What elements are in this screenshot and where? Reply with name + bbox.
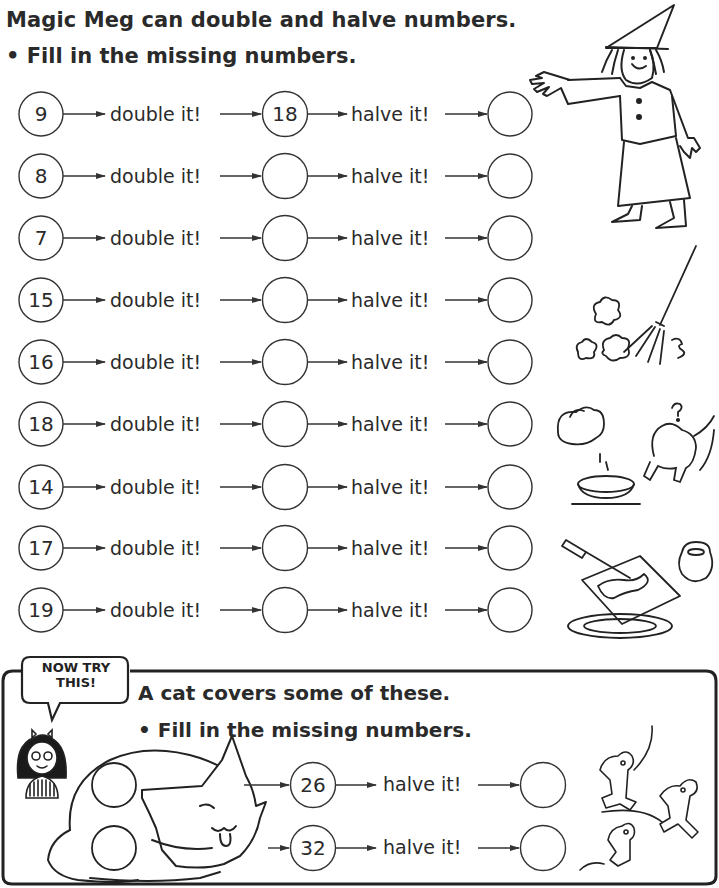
halved-answer-input[interactable] — [488, 588, 532, 632]
start-number: 15 — [19, 278, 63, 322]
start-number: 8 — [19, 154, 63, 198]
given-number: 32 — [291, 826, 335, 870]
doubled-answer-input[interactable] — [263, 526, 307, 570]
bubble-line-1: NOW TRY — [24, 660, 128, 675]
double-label: double it! — [110, 289, 201, 311]
halved-answer-input[interactable] — [521, 826, 565, 870]
halved-answer-input[interactable] — [488, 340, 532, 384]
girl-presenter-illustration — [18, 730, 67, 798]
start-number: 7 — [19, 216, 63, 260]
double-label: double it! — [110, 227, 201, 249]
start-number: 16 — [19, 340, 63, 384]
sleeping-cat-illustration — [48, 736, 266, 882]
doubled-answer-input[interactable] — [263, 402, 307, 446]
broom-illustration — [577, 246, 696, 364]
halve-label: halve it! — [351, 289, 429, 311]
start-number: 19 — [19, 588, 63, 632]
given-number: 26 — [291, 763, 335, 807]
challenge-title: A cat covers some of these. — [138, 681, 450, 705]
halve-label: halve it! — [351, 165, 429, 187]
page-instruction: • Fill in the missing numbers. — [6, 44, 356, 68]
doubled-answer-input[interactable] — [263, 588, 307, 632]
halve-label: halve it! — [351, 476, 429, 498]
page-title: Magic Meg can double and halve numbers. — [6, 8, 516, 32]
bubble-line-2: THIS! — [24, 675, 128, 690]
knife-toast-illustration — [562, 540, 712, 638]
start-number: 9 — [19, 92, 63, 136]
halved-answer-input[interactable] — [488, 278, 532, 322]
now-try-this-bubble: NOW TRY THIS! — [24, 660, 128, 690]
scared-mice-illustration — [580, 726, 698, 870]
halve-label: halve it! — [351, 227, 429, 249]
start-number: 14 — [19, 465, 63, 509]
halve-label: halve it! — [383, 773, 461, 795]
doubled-answer-input[interactable] — [263, 465, 307, 509]
double-label: double it! — [110, 351, 201, 373]
doubled-answer-input[interactable] — [263, 216, 307, 260]
hidden-number-input[interactable] — [92, 763, 136, 807]
halve-label: halve it! — [351, 351, 429, 373]
challenge-instruction: • Fill in the missing numbers. — [138, 718, 472, 742]
hidden-number-input[interactable] — [92, 826, 136, 870]
halve-label: halve it! — [351, 599, 429, 621]
double-label: double it! — [110, 476, 201, 498]
halved-answer-input[interactable] — [488, 526, 532, 570]
worksheet-canvas — [0, 0, 719, 888]
double-label: double it! — [110, 165, 201, 187]
witch-meg-illustration — [530, 5, 700, 228]
start-number: 17 — [19, 526, 63, 570]
halved-answer-input[interactable] — [488, 216, 532, 260]
double-label: double it! — [110, 537, 201, 559]
double-label: double it! — [110, 103, 201, 125]
halved-answer-input[interactable] — [488, 402, 532, 446]
halve-label: halve it! — [351, 537, 429, 559]
halved-answer-input[interactable] — [521, 763, 565, 807]
halve-label: halve it! — [351, 103, 429, 125]
doubled-answer-input[interactable] — [263, 278, 307, 322]
start-number: 18 — [19, 402, 63, 446]
doubled-answer-input[interactable] — [263, 340, 307, 384]
halved-answer-input[interactable] — [488, 465, 532, 509]
double-label: double it! — [110, 413, 201, 435]
halved-answer-input[interactable] — [488, 154, 532, 198]
jug-and-cat-illustration — [558, 404, 714, 505]
halve-label: halve it! — [351, 413, 429, 435]
double-label: double it! — [110, 599, 201, 621]
halve-label: halve it! — [383, 836, 461, 858]
doubled-answer-input[interactable] — [263, 154, 307, 198]
doubled-answer-input[interactable]: 18 — [263, 92, 307, 136]
halved-answer-input[interactable] — [488, 92, 532, 136]
